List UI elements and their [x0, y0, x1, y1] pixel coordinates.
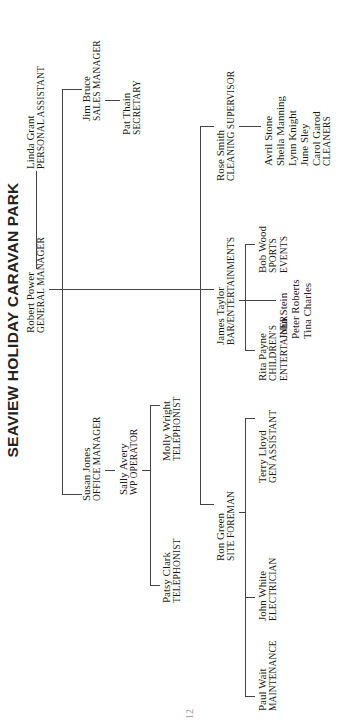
node-telephonist-1: Molly Wright TELEPHONIST	[160, 397, 183, 461]
connector-sally-bar	[150, 406, 151, 586]
node-maintenance: Paul Wait MAINTENANCE	[256, 640, 279, 711]
cleaner-name: Avril Stone	[262, 96, 274, 166]
node-role: GENERAL MANAGER	[36, 237, 47, 333]
node-cleaners: Avril Stone Sheila Manning Lynn Knight J…	[262, 96, 333, 166]
node-role: ELECTRICIAN	[268, 558, 279, 621]
cleaner-name: Carol Garod	[310, 96, 322, 166]
node-role: CLEANING SUPERVISOR	[226, 71, 237, 181]
node-role: TELEPHONIST	[172, 539, 183, 603]
node-name: Rose Smith	[214, 71, 226, 181]
node-bar-entertainments: James Taylor BAR/ENTERTAINMENTS	[214, 237, 237, 345]
node-name: Rita Payne	[256, 316, 268, 381]
node-role: BAR/ENTERTAINMENTS	[226, 237, 237, 345]
org-chart: SEAVIEW HOLIDAY CARAVAN PARK Robert Powe…	[0, 0, 343, 721]
node-role: GEN ASSISTANT	[268, 410, 279, 483]
connector-to-paul	[245, 696, 255, 697]
node-name: Paul Wait	[256, 640, 268, 711]
connector-susan-sally	[105, 470, 115, 471]
connector-gm-stem	[49, 289, 205, 290]
cleaner-name: Lynn Knight	[286, 96, 298, 166]
node-name: Ron Green	[214, 491, 226, 561]
node-name: Sally Avery	[117, 429, 129, 495]
node-electrician: John White ELECTRICIAN	[256, 558, 279, 621]
connector-to-bob	[245, 244, 255, 245]
staff-name: Tina Charles	[301, 279, 313, 339]
chart-title: SEAVIEW HOLIDAY CARAVAN PARK	[4, 155, 22, 485]
connector-to-rose	[200, 126, 214, 127]
node-name: Bob Wood	[256, 226, 268, 273]
node-name: Robert Power	[24, 237, 36, 333]
cleaner-name: Sheila Manning	[274, 96, 286, 166]
connector-jim-pat	[105, 100, 120, 101]
node-office-manager: Susan Jones OFFICE MANAGER	[80, 416, 103, 501]
node-wp-operator: Sally Avery WP OPERATOR	[117, 429, 140, 495]
node-role: SPORTS	[268, 226, 279, 273]
node-role: MAINTENANCE	[268, 640, 279, 711]
connector-gm-pa	[36, 171, 37, 269]
node-name: Molly Wright	[160, 397, 172, 461]
node-cleaning-supervisor: Rose Smith CLEANING SUPERVISOR	[214, 71, 237, 181]
node-role: TELEPHONIST	[172, 397, 183, 461]
connector-to-susan	[62, 494, 82, 495]
node-role: WP OPERATOR	[129, 429, 140, 495]
connector-main-bar-upper	[62, 90, 63, 495]
connector-to-terry	[245, 418, 255, 419]
node-role: SITE FOREMAN	[226, 491, 237, 561]
connector-to-john-white	[245, 597, 255, 598]
connector-to-rita	[245, 350, 255, 351]
node-role: SALES MANAGER	[92, 40, 103, 121]
node-role: PERSONAL ASSISTANT	[36, 66, 47, 169]
node-name: Patsy Clark	[160, 539, 172, 603]
node-name: John White	[256, 558, 268, 621]
node-site-foreman: Ron Green SITE FOREMAN	[214, 491, 237, 561]
node-role: CLEANERS	[322, 96, 333, 166]
node-name: Terry Lloyd	[256, 410, 268, 483]
connector-to-ron	[200, 504, 214, 505]
node-telephonist-2: Patsy Clark TELEPHONIST	[160, 539, 183, 603]
connector-to-james	[200, 289, 214, 290]
connector-main-bar-lower	[200, 127, 201, 505]
connector-to-jim	[62, 89, 82, 90]
node-secretary: Pat Thain SECRETARY	[120, 80, 143, 135]
node-role: OFFICE MANAGER	[92, 416, 103, 501]
connector-james-bar	[245, 245, 246, 351]
node-name: James Taylor	[214, 237, 226, 345]
node-personal-assistant: Linda Grant PERSONAL ASSISTANT	[24, 66, 47, 169]
node-name: Jim Bruce	[80, 40, 92, 121]
connector-ron-bar	[245, 419, 246, 697]
page-number: 12	[184, 709, 195, 719]
node-name: Linda Grant	[24, 66, 36, 169]
connector-rose-cleaners	[239, 126, 261, 127]
node-name: Susan Jones	[80, 416, 92, 501]
node-gen-assistant: Terry Lloyd GEN ASSISTANT	[256, 410, 279, 483]
node-sports-events: Bob Wood SPORTS EVENTS	[256, 226, 290, 273]
node-role: SECRETARY	[132, 80, 143, 135]
staff-name: John Stein	[277, 279, 289, 339]
connector-sally-stem	[142, 470, 150, 471]
connector-to-molly	[150, 405, 160, 406]
node-name: Pat Thain	[120, 80, 132, 135]
connector-to-patsy	[150, 585, 160, 586]
staff-name: Peter Roberts	[289, 279, 301, 339]
node-sales-manager: Jim Bruce SALES MANAGER	[80, 40, 103, 121]
cleaner-name: June Sley	[298, 96, 310, 166]
node-bar-staff: John Stein Peter Roberts Tina Charles	[277, 279, 313, 339]
node-role: EVENTS	[279, 226, 290, 273]
